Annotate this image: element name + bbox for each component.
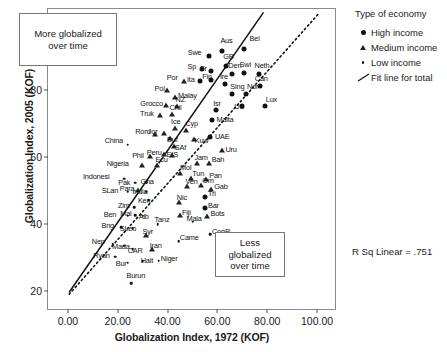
data-point-label: Tri — [208, 189, 216, 198]
data-point-label: Nic — [177, 193, 187, 202]
data-point-label: Mala — [187, 214, 202, 223]
data-point — [214, 107, 219, 112]
data-point — [230, 92, 235, 97]
scatter-plot-figure: Globalization Index, 2005 (KOF) Globaliz… — [0, 0, 447, 352]
data-point-label: Gab — [214, 182, 227, 191]
data-point-label: Para — [120, 184, 135, 193]
data-point-label: SLeo — [120, 224, 136, 233]
data-point-label: Ice — [171, 117, 180, 126]
x-tick-mark — [267, 309, 268, 313]
legend-swatch — [361, 30, 366, 35]
data-point-label: Bel — [250, 34, 260, 43]
data-point-label: Sp — [187, 62, 196, 71]
data-point — [202, 194, 207, 199]
data-point-label: Sing — [230, 82, 244, 91]
data-point-label: Isr — [213, 99, 221, 108]
data-point-label: Ken — [138, 196, 151, 205]
data-point-label: Lux — [266, 95, 277, 104]
data-point-label: Ven — [186, 177, 198, 186]
data-point — [244, 91, 249, 96]
data-point-label: Nor — [247, 82, 258, 91]
data-point-label: Syr — [142, 227, 153, 236]
y-tick-label: 20 — [30, 285, 42, 297]
data-point-label: Alb — [139, 212, 149, 221]
y-tick-label: 40 — [30, 218, 42, 230]
data-point — [241, 71, 246, 76]
data-point-label: Hait — [141, 256, 153, 265]
x-tick-label: 0.00 — [58, 315, 78, 327]
legend-item-label: High income — [371, 27, 423, 38]
legend: Type of economy High incomeMedium income… — [355, 8, 447, 86]
data-point — [134, 214, 137, 217]
data-point-label: Mol — [180, 163, 191, 172]
data-point — [222, 82, 227, 87]
data-point — [183, 128, 189, 133]
data-point-label: Uru — [225, 145, 236, 154]
x-tick-mark — [317, 309, 318, 313]
legend-title: Type of economy — [355, 8, 447, 19]
data-point-label: Bots — [210, 209, 224, 218]
data-point-label: Jam — [194, 153, 207, 162]
data-point-label: Burun — [126, 271, 145, 280]
data-point-label: Came — [180, 233, 199, 242]
x-tick-mark — [167, 309, 168, 313]
data-point-label: NZ — [176, 95, 185, 104]
data-point — [210, 118, 215, 123]
legend-item-label: Low income — [371, 57, 421, 68]
x-tick-label: 60.00 — [204, 315, 230, 327]
data-point — [133, 206, 136, 209]
annotation-more-globalized-text: More globalized over time — [24, 28, 112, 51]
data-point — [130, 282, 133, 285]
data-point-label: Kuw — [195, 136, 209, 145]
data-point-label: CAR — [128, 246, 143, 255]
data-point-label: Tanz — [155, 215, 170, 224]
data-point-label: Mal — [120, 209, 131, 218]
data-point-label: Rom — [135, 127, 150, 136]
data-point-label: Ryan — [93, 251, 109, 260]
y-tick-mark — [44, 89, 48, 90]
data-point-label: Ben — [104, 210, 117, 219]
data-point — [172, 126, 178, 131]
annotation-less-globalized: Less globalized over time — [215, 232, 285, 277]
legend-marker-low-icon — [355, 61, 371, 64]
legend-item-label: Fit line for total — [371, 72, 432, 83]
y-tick-mark — [44, 156, 48, 157]
data-point — [209, 233, 212, 236]
data-point-label: GB — [223, 52, 233, 61]
legend-swatch — [360, 45, 366, 50]
x-tick-label: 20.00 — [105, 315, 131, 327]
data-point — [163, 102, 169, 107]
data-point — [241, 46, 246, 51]
x-tick-mark — [117, 309, 118, 313]
data-point — [114, 255, 117, 258]
legend-item-fit: Fit line for total — [355, 71, 447, 84]
data-point-label: Niger — [161, 254, 178, 263]
annotation-less-globalized-text: Less globalized over time — [220, 237, 280, 272]
data-point-label: Om — [202, 176, 214, 185]
data-point-label: EIS — [167, 150, 178, 159]
data-point-label: Fin — [202, 72, 212, 81]
data-point-label: Ire — [220, 72, 228, 81]
data-point-label: China — [105, 136, 123, 145]
x-tick-label: 100.00 — [301, 315, 333, 327]
data-point — [170, 112, 176, 117]
data-point — [165, 87, 171, 92]
data-point — [181, 78, 187, 83]
y-tick-mark — [44, 223, 48, 224]
data-point-label: Aus — [220, 36, 232, 45]
data-point-label: Malta — [216, 115, 233, 124]
data-point — [126, 143, 129, 146]
data-point-label: Bng — [101, 221, 114, 230]
y-tick-label: 60 — [30, 151, 42, 163]
r-squared-annotation: R Sq Linear = .751 — [352, 246, 432, 257]
data-point-label: Por — [167, 73, 178, 82]
x-axis-title: Globalization Index, 1972 (KOF) — [47, 331, 337, 343]
data-point-label: Gha — [140, 177, 153, 186]
data-point-label: SLan — [102, 186, 118, 195]
data-point-label: Swi — [240, 60, 251, 69]
data-point-label: Truk — [140, 109, 154, 118]
data-point-label: Nep — [92, 237, 105, 246]
data-point-label: Ita — [187, 75, 195, 84]
data-point-label: Ecu — [156, 155, 168, 164]
x-tick-label: 80.00 — [254, 315, 280, 327]
